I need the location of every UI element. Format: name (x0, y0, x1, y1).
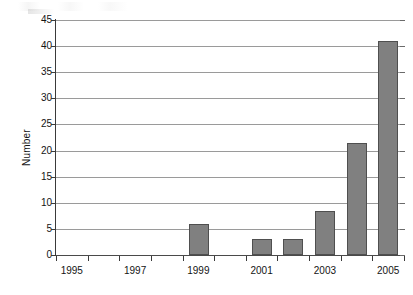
y-axis-tick-mark-right (400, 72, 405, 73)
y-axis-tick-mark-right (400, 177, 405, 178)
x-axis-tick-mark (214, 256, 215, 261)
y-axis-tick-mark (51, 98, 56, 99)
y-axis-tick-label: 15 (30, 172, 52, 182)
x-axis-tick-mark (88, 256, 89, 261)
y-axis-tick-label: 30 (30, 93, 52, 103)
y-axis-tick-label: 10 (30, 198, 52, 208)
y-axis-tick-mark-right (400, 124, 405, 125)
x-axis-tick-mark (309, 256, 310, 261)
x-axis-tick-mark (277, 256, 278, 261)
y-axis-tick-mark (51, 20, 56, 21)
y-axis-tick-label: 0 (30, 250, 52, 260)
y-axis-tick-mark (51, 46, 56, 47)
y-axis-tick-mark (51, 124, 56, 125)
x-axis-tick-mark (119, 256, 120, 261)
x-axis-tick-label: 1995 (50, 265, 94, 277)
x-axis-tick-mark (183, 256, 184, 261)
x-axis-tick-label: 1997 (113, 265, 157, 277)
y-axis-tick-label: 5 (30, 224, 52, 234)
x-axis-tick-label: 2005 (366, 265, 410, 277)
y-axis-tick-mark (51, 177, 56, 178)
y-axis-tick-mark (51, 229, 56, 230)
x-axis-tick-label: 1999 (176, 265, 220, 277)
x-axis-tick-mark (404, 256, 405, 261)
y-axis-tick-mark-right (400, 203, 405, 204)
gridline (56, 255, 404, 256)
bar (315, 211, 335, 255)
y-axis-tick-mark (51, 203, 56, 204)
bar (189, 224, 209, 255)
y-axis-tick-label: 20 (30, 146, 52, 156)
x-axis-tick-mark (246, 256, 247, 261)
y-axis-tick-mark-right (400, 151, 405, 152)
y-axis-tick-mark-right (400, 229, 405, 230)
bar (378, 41, 398, 255)
y-axis-tick-label: 40 (30, 41, 52, 51)
x-axis-tick-label: 2003 (303, 265, 347, 277)
x-axis-tick-mark (56, 256, 57, 261)
y-axis-tick-mark (51, 72, 56, 73)
bars-layer (56, 20, 404, 255)
y-axis-tick-label: 45 (30, 15, 52, 25)
y-axis-tick-mark (51, 151, 56, 152)
bar-chart: Number 051015202530354045 19951997199920… (0, 0, 413, 295)
bar (252, 239, 272, 255)
bar (347, 143, 367, 255)
y-axis-tick-mark-right (400, 20, 405, 21)
x-axis-tick-label: 2001 (240, 265, 284, 277)
y-axis-tick-label: 25 (30, 119, 52, 129)
x-axis-tick-mark (151, 256, 152, 261)
y-axis-tick-mark-right (400, 46, 405, 47)
y-axis-tick-mark-right (400, 98, 405, 99)
y-axis-tick-label: 35 (30, 67, 52, 77)
bar (283, 239, 303, 255)
y-axis-tick-labels: 051015202530354045 (26, 0, 52, 295)
x-axis-tick-mark (372, 256, 373, 261)
x-axis-tick-mark (341, 256, 342, 261)
